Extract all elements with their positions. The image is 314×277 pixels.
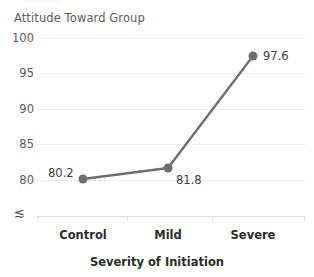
x-tick-label-mild: Mild xyxy=(154,228,182,242)
data-point-severe[interactable] xyxy=(249,52,258,61)
x-tick-label-severe: Severe xyxy=(231,228,276,242)
series-polyline xyxy=(83,56,253,179)
data-label-severe: 97.6 xyxy=(263,49,289,63)
data-point-control[interactable] xyxy=(79,175,88,184)
x-axis-title: Severity of Initiation xyxy=(0,255,314,269)
data-point-mild[interactable] xyxy=(164,164,173,173)
data-label-mild: 81.8 xyxy=(176,173,202,187)
plot-area: 100 95 90 85 80 ≲ 80.2 81.8 97.6 Control… xyxy=(0,0,314,277)
data-label-control: 80.2 xyxy=(48,166,74,180)
line-chart: Attitude Toward Group 100 95 90 85 80 ≲ … xyxy=(0,0,314,277)
x-tick-label-control: Control xyxy=(59,228,107,242)
